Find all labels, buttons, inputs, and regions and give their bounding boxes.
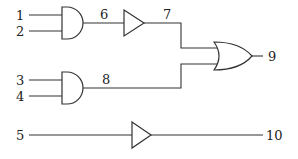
input-label-2: 2 [16, 24, 24, 39]
input-label-1: 1 [16, 8, 24, 23]
wire-label-7: 7 [163, 7, 171, 22]
input-label-5: 5 [16, 128, 24, 143]
output-label-9: 9 [268, 49, 276, 64]
wire-7 [144, 23, 218, 48]
buffer-gate-1 [124, 10, 144, 36]
logic-circuit-diagram: 1 2 3 4 5 6 7 8 9 10 [0, 0, 298, 159]
and-gate-1 [62, 7, 83, 39]
input-label-3: 3 [16, 73, 24, 88]
and-gate-2 [62, 72, 83, 104]
wire-label-8: 8 [102, 72, 110, 87]
input-label-4: 4 [16, 89, 24, 104]
or-gate [214, 42, 252, 70]
buffer-gate-2 [132, 122, 151, 148]
output-label-10: 10 [266, 128, 283, 143]
wire-label-6: 6 [100, 7, 108, 22]
